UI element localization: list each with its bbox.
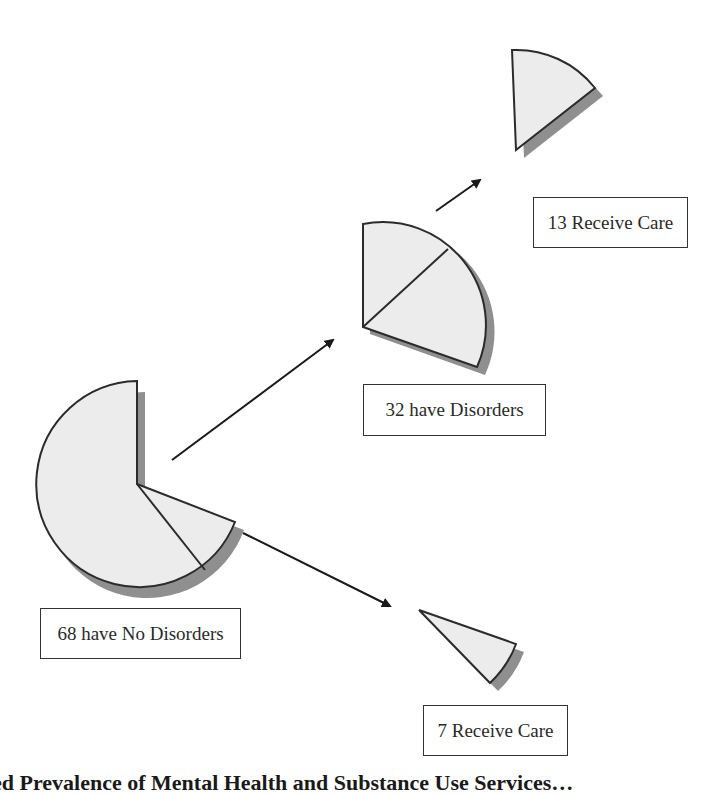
pie-no-disorders [36,381,244,598]
pie-have-disorders-body [363,222,486,367]
label-no-disorders-text: 68 have No Disorders [57,623,223,645]
pie-disorders-receive-care [512,50,603,158]
label-disorders-receive-care-text: 13 Receive Care [548,212,674,234]
label-have-disorders: 32 have Disorders [363,384,546,436]
label-have-disorders-text: 32 have Disorders [385,399,523,421]
label-no-disorders: 68 have No Disorders [40,608,241,659]
arrow-to-have-disorders [172,340,333,460]
label-no-disorders-receive-care: 7 Receive Care [423,705,568,756]
label-no-disorders-receive-care-text: 7 Receive Care [437,720,553,742]
label-disorders-receive-care: 13 Receive Care [533,197,688,248]
pie-no-disorders-receive-care [419,610,524,691]
arrow-to-disorders-receive-care [436,180,480,211]
pie-have-disorders [363,222,495,375]
figure-caption: …ed Prevalence of Mental Health and Subs… [0,770,721,794]
pie-no-disorders-body [36,381,235,587]
arrow-to-no-disorders-receive-care [243,533,390,606]
